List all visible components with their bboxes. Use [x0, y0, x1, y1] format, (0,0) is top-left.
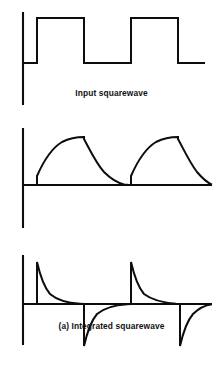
differentiated-positive-spike-1: [37, 262, 84, 304]
differentiated-negative-spike-2: [180, 304, 212, 346]
panel-differentiated-squarewave: (b) Differentiated squarewave: [0, 240, 223, 377]
differentiated-positive-spike-2: [131, 262, 180, 304]
waveform-figure: Input squarewave (a) Integrated squarewa…: [0, 0, 223, 377]
integrated-cycle-2: [131, 137, 212, 185]
panel-input-squarewave: Input squarewave: [0, 0, 223, 115]
squarewave-trace: [22, 18, 205, 63]
differentiated-negative-spike-1: [84, 304, 131, 346]
panel-integrated-squarewave: (a) Integrated squarewave: [0, 115, 223, 240]
integrated-squarewave-plot: [0, 115, 223, 240]
integrated-cycle-1: [37, 137, 129, 185]
caption-input-squarewave: Input squarewave: [0, 89, 223, 97]
differentiated-squarewave-plot: [0, 240, 223, 377]
